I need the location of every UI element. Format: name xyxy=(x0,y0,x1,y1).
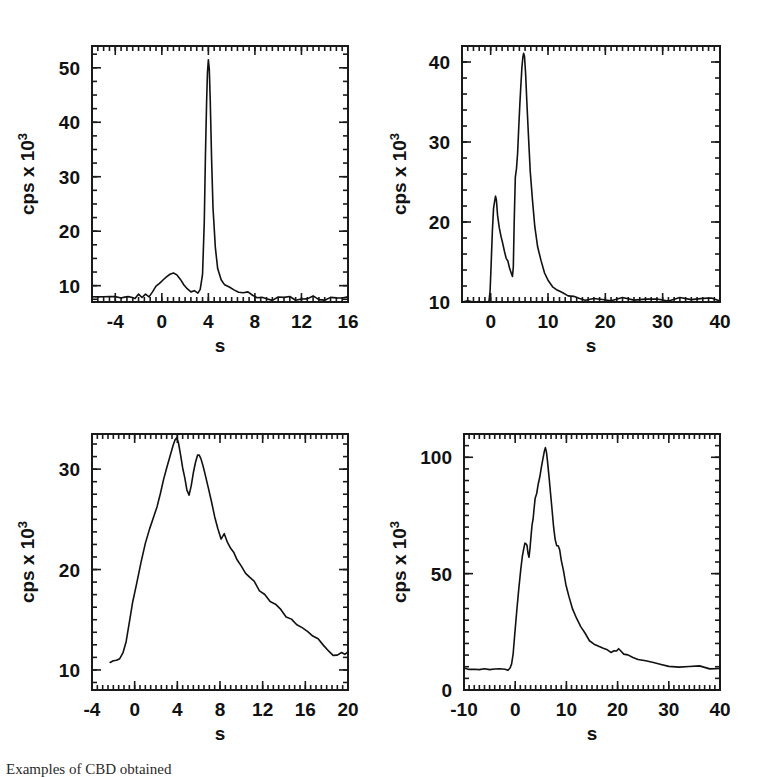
svg-text:10: 10 xyxy=(59,276,80,297)
panel-bottom-right: -10010203040 050100 s cps x 103 xyxy=(380,398,760,773)
svg-text:100: 100 xyxy=(420,447,452,468)
data-curve-top-right xyxy=(462,53,720,302)
svg-text:40: 40 xyxy=(709,699,730,720)
x-tick-labels-bottom-left: -4048121620 xyxy=(84,699,359,720)
svg-text:8: 8 xyxy=(215,699,226,720)
y-axis-label-top-left: cps x 103 xyxy=(15,133,38,215)
svg-text:40: 40 xyxy=(429,52,450,73)
svg-text:10: 10 xyxy=(556,699,577,720)
x-axis-label-top-left: s xyxy=(215,335,226,356)
y-tick-labels-bottom-left: 102030 xyxy=(59,459,80,681)
axis-frame-top-left xyxy=(92,46,348,302)
data-curve-bottom-right xyxy=(464,448,720,671)
svg-text:20: 20 xyxy=(595,311,616,332)
svg-text:12: 12 xyxy=(291,311,312,332)
svg-text:20: 20 xyxy=(429,212,450,233)
x-axis-label-bottom-right: s xyxy=(587,723,598,744)
panel-top-right: 010203040 10203040 s cps x 103 xyxy=(380,8,760,390)
y-tick-labels-bottom-right: 050100 xyxy=(420,447,452,701)
svg-text:0: 0 xyxy=(129,699,140,720)
svg-text:50: 50 xyxy=(431,564,452,585)
plot-top-right: 010203040 10203040 s cps x 103 xyxy=(380,8,760,390)
svg-text:30: 30 xyxy=(658,699,679,720)
svg-text:10: 10 xyxy=(59,660,80,681)
x-tick-labels-bottom-right: -10010203040 xyxy=(450,699,730,720)
y-axis-label-bottom-left: cps x 103 xyxy=(15,521,38,603)
tick-marks-top-left xyxy=(92,46,348,302)
svg-text:10: 10 xyxy=(537,311,558,332)
svg-text:-10: -10 xyxy=(450,699,477,720)
svg-text:12: 12 xyxy=(252,699,273,720)
svg-text:16: 16 xyxy=(337,311,358,332)
svg-text:0: 0 xyxy=(157,311,168,332)
svg-text:30: 30 xyxy=(652,311,673,332)
svg-text:20: 20 xyxy=(59,560,80,581)
svg-text:-4: -4 xyxy=(84,699,101,720)
panel-bottom-left: -4048121620 102030 s cps x 103 xyxy=(0,398,380,773)
svg-text:0: 0 xyxy=(510,699,521,720)
svg-text:-4: -4 xyxy=(107,311,124,332)
axis-frame-bottom-right xyxy=(464,434,720,690)
y-axis-label-bottom-right: cps x 103 xyxy=(387,521,410,603)
axis-frame-top-right xyxy=(462,46,720,302)
data-curve-bottom-left xyxy=(110,438,348,663)
svg-text:40: 40 xyxy=(59,112,80,133)
svg-text:8: 8 xyxy=(250,311,261,332)
svg-text:30: 30 xyxy=(429,132,450,153)
plot-bottom-right: -10010203040 050100 s cps x 103 xyxy=(380,398,760,773)
svg-text:30: 30 xyxy=(59,167,80,188)
svg-text:20: 20 xyxy=(59,221,80,242)
y-tick-labels-top-right: 10203040 xyxy=(429,52,450,313)
tick-marks-bottom-right xyxy=(464,434,720,690)
svg-text:20: 20 xyxy=(607,699,628,720)
svg-text:40: 40 xyxy=(709,311,730,332)
svg-text:0: 0 xyxy=(485,311,496,332)
plot-top-left: -40481216 1020304050 s cps x 103 xyxy=(0,8,380,390)
plot-bottom-left: -4048121620 102030 s cps x 103 xyxy=(0,398,380,773)
svg-text:10: 10 xyxy=(429,292,450,313)
axis-frame-bottom-left xyxy=(92,434,348,690)
svg-text:0: 0 xyxy=(441,680,452,701)
figure-caption: Examples of CBD obtained xyxy=(6,761,506,777)
svg-text:16: 16 xyxy=(295,699,316,720)
data-curve-top-left xyxy=(92,60,348,301)
y-tick-labels-top-left: 1020304050 xyxy=(59,58,80,297)
panel-top-left: -40481216 1020304050 s cps x 103 xyxy=(0,8,380,390)
x-axis-label-bottom-left: s xyxy=(215,723,226,744)
x-tick-labels-top-right: 010203040 xyxy=(485,311,730,332)
svg-text:30: 30 xyxy=(59,459,80,480)
tick-marks-bottom-left xyxy=(92,434,348,690)
svg-text:50: 50 xyxy=(59,58,80,79)
svg-text:4: 4 xyxy=(203,311,214,332)
tick-marks-top-right xyxy=(462,46,720,302)
x-axis-label-top-right: s xyxy=(586,335,597,356)
x-tick-labels-top-left: -40481216 xyxy=(107,311,359,332)
svg-text:4: 4 xyxy=(172,699,183,720)
svg-text:20: 20 xyxy=(337,699,358,720)
y-axis-label-top-right: cps x 103 xyxy=(387,133,410,215)
